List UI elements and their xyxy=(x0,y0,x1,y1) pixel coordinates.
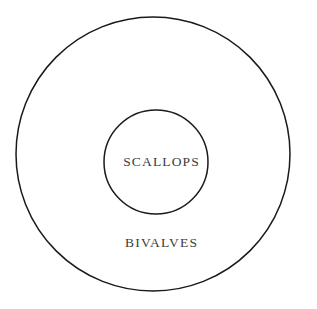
set-label-bivalves: BIVALVES xyxy=(124,236,198,250)
diagram-canvas: SCALLOPS BIVALVES xyxy=(0,0,317,309)
set-label-scallops: SCALLOPS xyxy=(122,155,200,169)
